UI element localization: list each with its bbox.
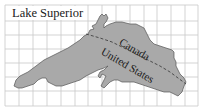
map-title: Lake Superior [10, 6, 85, 20]
lake-superior-map: Lake Superior Canada United States [0, 0, 207, 112]
